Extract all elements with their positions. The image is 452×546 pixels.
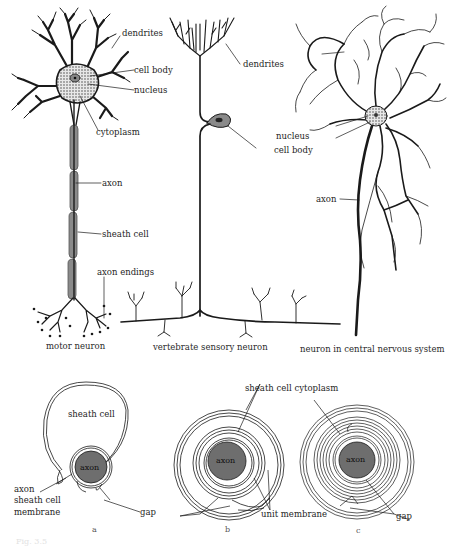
label-sensory-cell-body: cell body [274, 146, 313, 155]
label-motor-cytoplasm: cytoplasm [96, 128, 140, 137]
label-sensory-dendrites: dendrites [243, 60, 284, 69]
label-motor-dendrites: dendrites [122, 29, 163, 38]
stage-letter-a: a [92, 526, 97, 534]
stage-letter-c: c [356, 527, 360, 535]
label-a-sheath-cell: sheath cell [68, 410, 115, 419]
label-a-membrane-line3: membrane [14, 508, 60, 517]
caption-motor-neuron: motor neuron [46, 342, 105, 351]
label-motor-axon: axon [102, 179, 122, 188]
label-b-axon: axon [216, 457, 235, 465]
cns-neuron-drawing [296, 6, 447, 335]
label-a-axon: axon [80, 464, 99, 472]
label-motor-sheath-cell: sheath cell [102, 230, 149, 239]
label-a-membrane-line1: axon [14, 485, 34, 494]
label-c-gap: gap [396, 512, 412, 521]
motor-neuron-drawing [12, 8, 134, 337]
label-cns-axon: axon [316, 195, 336, 204]
sheath-stage-a-drawing [40, 382, 140, 512]
label-b-sheath-cytoplasm: sheath cell cytoplasm [245, 384, 338, 393]
label-motor-axon-endings: axon endings [97, 268, 154, 277]
label-b-unit-membrane: unit membrane [261, 510, 327, 519]
figure-caption: Fig. 3.5 [16, 537, 47, 546]
caption-cns-neuron: neuron in central nervous system [300, 345, 445, 354]
label-a-membrane-line2: sheath cell [14, 496, 61, 505]
stage-letter-b: b [225, 526, 230, 534]
label-cns-nucleus: nucleus [276, 132, 309, 141]
caption-sensory-neuron: vertebrate sensory neuron [153, 343, 268, 352]
label-motor-nucleus: nucleus [134, 86, 167, 95]
label-a-gap: gap [140, 508, 156, 517]
sheath-stage-b-drawing [174, 384, 284, 520]
label-c-axon: axon [346, 456, 365, 464]
label-motor-cell-body: cell body [134, 66, 173, 75]
